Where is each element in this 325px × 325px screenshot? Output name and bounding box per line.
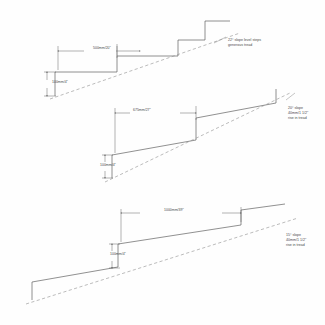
slope-note-bottom-line-3: rise in tread: [286, 243, 306, 248]
slope-note-top-line-2: generous tread: [228, 43, 261, 48]
slope-note-bottom: 15° slope 40mm/1 1/2" rise in tread: [286, 233, 306, 248]
rise-dimension-label-middle: 100mm/4": [100, 163, 116, 167]
slope-note-middle-line-3: rise in tread: [288, 116, 308, 121]
run-dimension-label-top: 500mm/20": [93, 46, 111, 50]
slope-reference-line-bottom: [26, 218, 298, 304]
rise-dimension-top: [44, 72, 56, 96]
run-dimension-label-bottom: 1000mm/39": [164, 208, 184, 212]
run-dimension-bottom: [121, 207, 241, 242]
run-dimension-label-middle: 675mm/27": [133, 108, 151, 112]
step-profile-top: [55, 21, 230, 96]
run-dimension-middle: [115, 106, 196, 153]
detail-middle-geometry: [112, 89, 276, 178]
leader-line-top: [214, 37, 226, 43]
rise-dimension-label-bottom: 100mm/4": [110, 252, 126, 256]
drawing-sheet: 500mm/20" 100mm/4" 22° slope level steps…: [0, 0, 325, 325]
rise-dimension-bottom: [109, 244, 120, 268]
slope-note-middle: 20° slope 40mm/1 1/2" rise in tread: [288, 106, 308, 121]
drawing-canvas: [0, 0, 325, 325]
slope-note-top: 22° slope level steps generous tread: [228, 38, 261, 48]
detail-bottom-geometry: [32, 204, 285, 300]
step-profile-middle: [112, 89, 276, 178]
detail-top-geometry: [55, 21, 230, 96]
slope-reference-line-top: [50, 33, 240, 99]
step-profile-bottom: [32, 204, 285, 300]
rise-dimension-label-top: 100mm/4": [52, 80, 68, 84]
slope-reference-line-middle: [105, 93, 290, 182]
